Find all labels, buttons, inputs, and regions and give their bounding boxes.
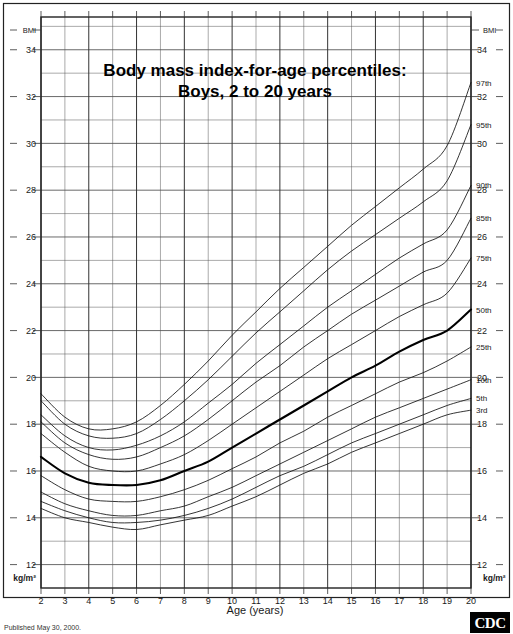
y-axis-tick-label: 16 bbox=[477, 466, 487, 476]
x-axis-title: Age (years) bbox=[227, 604, 284, 616]
percentile-label-75th: 75th bbox=[476, 254, 492, 263]
x-axis-tick-label: 20 bbox=[466, 596, 476, 606]
y-axis-tick-label: 22 bbox=[477, 326, 487, 336]
percentile-label-85th: 85th bbox=[476, 214, 492, 223]
x-axis-tick-label: 16 bbox=[370, 596, 380, 606]
y-axis-tick-label: 28 bbox=[26, 185, 36, 195]
cdc-logo-text: CDC bbox=[475, 615, 506, 631]
x-axis-tick-label: 9 bbox=[206, 596, 211, 606]
x-axis-tick-label: 15 bbox=[347, 596, 357, 606]
x-axis-tick-label: 17 bbox=[394, 596, 404, 606]
y-axis-tick-label: 30 bbox=[477, 139, 487, 149]
left-axis-unit: kg/m² bbox=[13, 573, 36, 583]
x-axis-tick-label: 13 bbox=[299, 596, 309, 606]
right-axis-header: BMI bbox=[483, 26, 496, 35]
y-axis-tick-label: 20 bbox=[26, 373, 36, 383]
y-axis-tick-label: 12 bbox=[26, 560, 36, 570]
cdc-logo: CDC bbox=[470, 612, 510, 633]
y-axis-tick-label: 30 bbox=[26, 139, 36, 149]
y-axis-tick-label: 14 bbox=[26, 513, 36, 523]
y-axis-tick-label: 18 bbox=[477, 419, 487, 429]
y-axis-tick-label: 24 bbox=[477, 279, 487, 289]
percentile-label-5th: 5th bbox=[476, 394, 487, 403]
percentile-label-97th: 97th bbox=[476, 79, 492, 88]
y-axis-tick-label: 16 bbox=[26, 466, 36, 476]
chart-svg: 3434323230302828262624242222202018181616… bbox=[0, 0, 513, 634]
chart-title-line2: Boys, 2 to 20 years bbox=[178, 82, 332, 101]
percentile-label-50th: 50th bbox=[476, 306, 492, 315]
y-axis-tick-label: 32 bbox=[26, 92, 36, 102]
percentile-label-10th: 10th bbox=[476, 376, 492, 385]
y-axis-tick-label: 34 bbox=[477, 45, 487, 55]
percentile-label-25th: 25th bbox=[476, 343, 492, 352]
x-axis-tick-label: 7 bbox=[158, 596, 163, 606]
y-axis-tick-label: 18 bbox=[26, 419, 36, 429]
published-date: Published May 30, 2000. bbox=[4, 624, 81, 632]
x-axis-tick-label: 14 bbox=[323, 596, 333, 606]
y-axis-tick-label: 14 bbox=[477, 513, 487, 523]
y-axis-tick-label: 26 bbox=[26, 232, 36, 242]
x-axis-tick-label: 6 bbox=[134, 596, 139, 606]
chart-title-line1: Body mass index-for-age percentiles: bbox=[103, 61, 406, 80]
y-axis-tick-label: 26 bbox=[477, 232, 487, 242]
percentile-label-95th: 95th bbox=[476, 121, 492, 130]
x-axis-tick-label: 4 bbox=[86, 596, 91, 606]
x-axis-tick-label: 8 bbox=[182, 596, 187, 606]
x-axis-tick-label: 3 bbox=[62, 596, 67, 606]
x-axis-tick-label: 19 bbox=[442, 596, 452, 606]
y-axis-tick-label: 34 bbox=[26, 45, 36, 55]
x-axis-tick-label: 2 bbox=[38, 596, 43, 606]
y-axis-tick-label: 12 bbox=[477, 560, 487, 570]
percentile-label-3rd: 3rd bbox=[476, 406, 488, 415]
bmi-growth-chart: 3434323230302828262624242222202018181616… bbox=[0, 0, 513, 634]
x-axis-tick-label: 5 bbox=[110, 596, 115, 606]
left-axis-header: BMI bbox=[23, 26, 36, 35]
right-axis-unit: kg/m² bbox=[483, 573, 506, 583]
percentile-label-90th: 90th bbox=[476, 181, 492, 190]
y-axis-tick-label: 22 bbox=[26, 326, 36, 336]
x-axis-tick-label: 18 bbox=[418, 596, 428, 606]
y-axis-tick-label: 24 bbox=[26, 279, 36, 289]
y-axis-tick-label: 32 bbox=[477, 92, 487, 102]
